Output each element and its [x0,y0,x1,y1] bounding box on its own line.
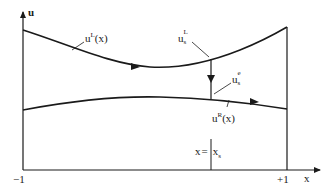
lower-curve-label: uR(x) [212,113,235,124]
shock-location-lhs: x [195,145,201,157]
usL-leader-line [192,42,209,57]
lower-curve-uR [23,97,287,110]
x-left-tick-label: −1 [13,174,25,185]
upper-curve-uL [23,27,287,67]
shock-entropy-state-sub: s [238,80,241,87]
shock-left-state-sup: L [184,29,188,36]
x-right-tick-label: +1 [277,174,289,185]
upper-curve-arrow-icon [131,63,140,70]
y-axis-label: u [28,7,34,18]
shock-location-label: x=xs [195,146,221,157]
lower-curve-label-arg: (x) [222,112,235,124]
use-leader-line [214,83,231,94]
diagram-canvas [0,0,334,191]
shock-entropy-state-label: ues [232,74,245,85]
shock-location-rhs-sub: s [218,152,221,160]
shock-left-state-label: uLs [178,33,191,44]
shock-left-state-sub: s [184,39,187,46]
upper-curve-label: uL(x) [85,33,108,44]
shock-down-arrow-icon [207,75,215,83]
shock-location-eq: = [202,145,208,157]
shock-entropy-state-sup: e [238,70,241,77]
x-axis-label: x [304,173,310,184]
upper-curve-label-arg: (x) [95,32,108,44]
